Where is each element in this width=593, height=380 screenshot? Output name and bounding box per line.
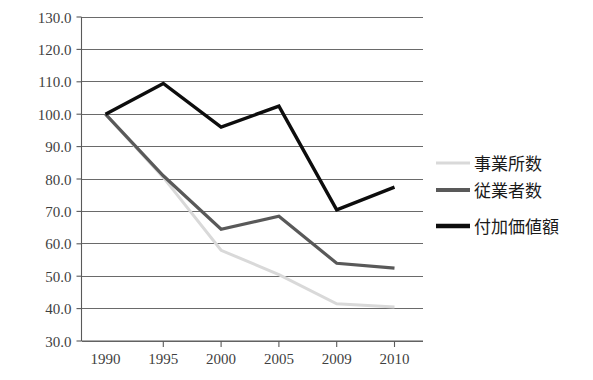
y-axis-tick-marks: [77, 17, 82, 341]
x-tick-label: 2005: [264, 351, 294, 367]
y-tick-label: 80.0: [45, 172, 71, 188]
x-tick-label: 1995: [148, 351, 178, 367]
data-series-group: [106, 83, 395, 307]
x-tick-label: 2009: [322, 351, 352, 367]
y-tick-label: 120.0: [38, 42, 72, 58]
series-line-2: [106, 114, 395, 268]
chart-container: 130.0120.0110.0100.090.080.070.060.050.0…: [0, 0, 593, 380]
y-tick-label: 30.0: [45, 334, 71, 350]
chart-legend: 事業所数従業者数付加価値額: [436, 155, 559, 237]
y-tick-label: 90.0: [45, 139, 71, 155]
grid-lines: [82, 17, 424, 341]
y-tick-label: 130.0: [38, 10, 72, 26]
y-tick-label: 40.0: [45, 301, 71, 317]
x-tick-label: 1990: [91, 351, 121, 367]
y-axis-tick-labels: 130.0120.0110.0100.090.080.070.060.050.0…: [38, 10, 72, 350]
x-axis-tick-labels: 199019952000200520092010: [91, 351, 410, 367]
y-tick-label: 70.0: [45, 204, 71, 220]
y-tick-label: 110.0: [38, 74, 71, 90]
x-axis-tick-marks: [163, 341, 394, 347]
legend-label-1: 事業所数: [474, 155, 542, 174]
y-tick-label: 100.0: [38, 107, 72, 123]
x-tick-label: 2010: [380, 351, 410, 367]
legend-label-3: 付加価値額: [474, 218, 559, 237]
x-tick-label: 2000: [206, 351, 236, 367]
y-tick-label: 60.0: [45, 236, 71, 252]
legend-label-2: 従業者数: [474, 182, 542, 201]
y-tick-label: 50.0: [45, 269, 71, 285]
line-chart: 130.0120.0110.0100.090.080.070.060.050.0…: [0, 0, 593, 380]
series-line-1: [106, 114, 395, 307]
